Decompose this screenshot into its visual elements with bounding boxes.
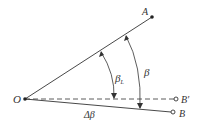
beta-l-subscript: L <box>119 79 124 85</box>
arc-beta-l <box>101 52 114 98</box>
label-b: B <box>179 108 185 119</box>
label-b-prime: B′ <box>181 94 190 105</box>
line-ob <box>25 99 171 112</box>
arc-beta <box>126 36 140 108</box>
arrow-head-beta-l-bottom <box>111 93 117 99</box>
label-o: O <box>13 93 21 105</box>
point-b <box>171 110 175 114</box>
label-a: A <box>141 6 149 17</box>
point-o <box>23 97 27 101</box>
angle-diagram: O A B′ B βL β Δβ <box>0 0 201 130</box>
point-b-prime <box>174 97 178 101</box>
line-oa <box>25 17 152 99</box>
label-delta-beta: Δβ <box>83 109 95 120</box>
label-beta: β <box>143 66 150 78</box>
label-beta-l: βL <box>114 72 124 85</box>
arrow-head-beta-bottom <box>137 103 143 109</box>
point-a <box>150 15 154 19</box>
